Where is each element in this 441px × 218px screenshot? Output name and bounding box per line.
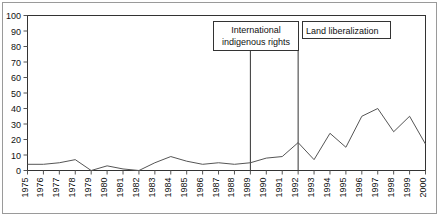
- x-tick-label: 1992: [290, 178, 300, 198]
- x-tick-label: 2000: [418, 178, 428, 198]
- x-tick-label: 1982: [131, 178, 141, 198]
- x-tick-label: 1976: [35, 178, 45, 198]
- x-tick-label: 1989: [242, 178, 252, 198]
- chart-figure: 100 90 80 70 60 50 40 30 20 10 0 1975197…: [0, 0, 441, 218]
- y-tick-label: 0: [16, 166, 21, 176]
- x-tick-label: 1994: [322, 178, 332, 198]
- x-tick-label: 1998: [386, 178, 396, 198]
- y-axis-labels: 100 90 80 70 60 50 40 30 20 10 0: [6, 11, 21, 176]
- annotation-line-1: Land liberalization: [306, 26, 379, 36]
- annotation-box-land-liberalization[interactable]: Land liberalization: [303, 22, 391, 39]
- y-tick-label: 10: [11, 151, 21, 161]
- y-axis-ticks: [24, 16, 28, 171]
- x-tick-label: 1999: [402, 178, 412, 198]
- x-tick-label: 1975: [20, 178, 30, 198]
- x-tick-label: 1979: [83, 178, 93, 198]
- x-tick-label: 1991: [274, 178, 284, 198]
- x-tick-label: 1996: [354, 178, 364, 198]
- x-tick-label: 1990: [258, 178, 268, 198]
- x-tick-label: 1997: [370, 178, 380, 198]
- x-tick-label: 1987: [211, 178, 221, 198]
- annotation-line-1: International: [231, 25, 281, 35]
- x-tick-label: 1985: [179, 178, 189, 198]
- annotation-box-international-indigenous-rights[interactable]: International indigenous rights: [214, 22, 299, 51]
- x-tick-label: 1983: [147, 178, 157, 198]
- x-tick-label: 1977: [51, 178, 61, 198]
- x-tick-label: 1993: [306, 178, 316, 198]
- x-tick-label: 1988: [226, 178, 236, 198]
- x-tick-label: 1984: [163, 178, 173, 198]
- x-tick-label: 1995: [338, 178, 348, 198]
- annotation-line-2: indigenous rights: [222, 37, 291, 47]
- x-tick-label: 1980: [99, 178, 109, 198]
- x-tick-label: 1981: [115, 178, 125, 198]
- x-tick-label: 1986: [195, 178, 205, 198]
- x-tick-label: 1978: [67, 178, 77, 198]
- line-chart: 100 90 80 70 60 50 40 30 20 10 0 1975197…: [0, 0, 441, 218]
- y-tick-label: 30: [11, 120, 21, 130]
- y-tick-label: 100: [6, 11, 21, 21]
- y-tick-label: 90: [11, 27, 21, 37]
- y-tick-label: 80: [11, 42, 21, 52]
- y-tick-label: 20: [11, 135, 21, 145]
- y-tick-label: 40: [11, 104, 21, 114]
- y-tick-label: 60: [11, 73, 21, 83]
- y-tick-label: 70: [11, 58, 21, 68]
- x-axis: 1975197619771978197919801981198219831984…: [20, 171, 428, 198]
- y-tick-label: 50: [11, 89, 21, 99]
